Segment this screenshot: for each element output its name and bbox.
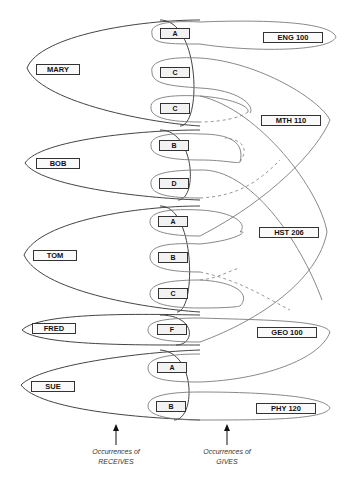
student-box-mary: MARY	[36, 64, 80, 75]
grade-box: B	[158, 252, 188, 263]
course-box-eng100: ENG 100	[263, 32, 323, 43]
receives-caption-line1: Occurrences of	[81, 447, 151, 457]
gives-arrow-head	[224, 424, 230, 431]
gives-caption-line1: Occurrences of	[192, 447, 262, 457]
course-box-phy120: PHY 120	[256, 403, 316, 414]
grade-box: F	[157, 324, 187, 335]
hst206-oval	[200, 96, 327, 342]
course-box-hst206: HST 206	[259, 227, 319, 238]
course-box-geo100: GEO 100	[257, 327, 317, 338]
mth110-oval	[200, 58, 330, 236]
grade-box: B	[156, 401, 186, 412]
gives-caption-line2: GIVES	[192, 457, 262, 467]
grade-box: A	[160, 28, 190, 39]
grade-box: C	[158, 288, 188, 299]
student-box-bob: BOB	[36, 158, 80, 169]
receives-arrow-head	[113, 424, 119, 431]
student-box-tom: TOM	[33, 250, 77, 261]
receives-caption: Occurrences of RECEIVES	[81, 447, 151, 467]
grade-box: C	[160, 67, 190, 78]
student-box-sue: SUE	[31, 381, 75, 392]
grade-box: D	[159, 178, 189, 189]
student-box-fred: FRED	[32, 323, 76, 334]
receives-caption-line2: RECEIVES	[81, 457, 151, 467]
grade-box: A	[158, 216, 188, 227]
grade-box: B	[159, 140, 189, 151]
grade-box: C	[160, 103, 190, 114]
grade-box: A	[157, 362, 187, 373]
course-box-mth110: MTH 110	[261, 115, 321, 126]
gives-caption: Occurrences of GIVES	[192, 447, 262, 467]
